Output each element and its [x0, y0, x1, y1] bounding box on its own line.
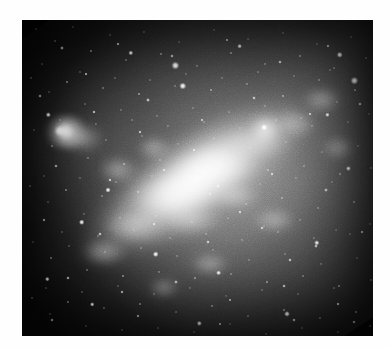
image-canvas: Grayscale telescopic image of an irregul… [0, 0, 390, 348]
galaxy-photograph [22, 20, 373, 336]
image-caption: Grayscale telescopic image of an irregul… [0, 0, 1, 1]
film-grain-noise [22, 20, 373, 336]
